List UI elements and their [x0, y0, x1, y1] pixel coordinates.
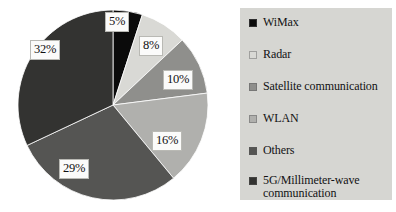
- legend-swatch-5g: [249, 177, 257, 185]
- legend-item-wimax[interactable]: WiMax: [249, 16, 299, 29]
- legend-swatch-others: [249, 147, 257, 155]
- slice-label-radar: 8%: [139, 36, 163, 56]
- slice-label-wimax: 5%: [105, 12, 129, 32]
- slice-label-wlan: 16%: [152, 131, 182, 151]
- legend-item-radar[interactable]: Radar: [249, 48, 291, 61]
- legend-item-others[interactable]: Others: [249, 144, 294, 157]
- legend-swatch-wlan: [249, 115, 257, 123]
- pie-chart-figure: 5% 8% 10% 16% 29% 32% WiMax Radar Satell…: [0, 0, 396, 212]
- pie-chart-svg: [0, 0, 232, 212]
- legend-item-satellite[interactable]: Satellite communication: [249, 80, 378, 93]
- legend-swatch-radar: [249, 51, 257, 59]
- legend-item-5g[interactable]: 5G/Millimeter-wave communication: [249, 174, 360, 200]
- legend-label-others: Others: [263, 144, 294, 157]
- slice-label-satellite: 10%: [163, 70, 193, 90]
- legend-swatch-satellite: [249, 83, 257, 91]
- slice-label-others: 29%: [59, 159, 89, 179]
- legend-label-wlan: WLAN: [263, 112, 299, 125]
- legend-label-5g: 5G/Millimeter-wave communication: [263, 174, 360, 200]
- chart-legend: WiMax Radar Satellite communication WLAN…: [240, 8, 392, 200]
- legend-label-radar: Radar: [263, 48, 291, 61]
- legend-item-wlan[interactable]: WLAN: [249, 112, 299, 125]
- pie-chart-plot-area: 5% 8% 10% 16% 29% 32%: [0, 0, 232, 212]
- legend-swatch-wimax: [249, 19, 257, 27]
- legend-label-wimax: WiMax: [263, 16, 299, 29]
- pie-slice-group: [18, 10, 208, 200]
- legend-label-satellite: Satellite communication: [263, 80, 378, 93]
- slice-label-5g: 32%: [30, 40, 60, 60]
